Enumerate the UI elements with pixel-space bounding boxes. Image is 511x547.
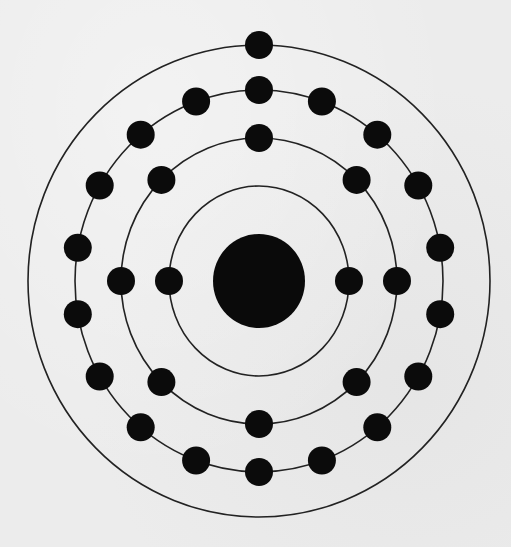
electron-l-8	[147, 166, 175, 194]
electron-l-7	[107, 267, 135, 295]
electron-m-12	[127, 413, 155, 441]
electron-m-11	[182, 447, 210, 475]
electron-m-16	[86, 172, 114, 200]
electron-k-1	[335, 267, 363, 295]
electron-m-4	[404, 172, 432, 200]
electron-m-8	[363, 413, 391, 441]
electron-l-6	[147, 368, 175, 396]
electron-n-1	[245, 31, 273, 59]
electron-m-15	[64, 234, 92, 262]
electron-m-13	[86, 363, 114, 391]
electron-m-5	[426, 234, 454, 262]
electron-m-7	[404, 363, 432, 391]
electron-l-1	[245, 124, 273, 152]
electron-m-9	[308, 447, 336, 475]
electron-m-1	[245, 76, 273, 104]
bohr-atom-diagram	[0, 0, 511, 547]
electron-m-2	[308, 88, 336, 116]
diagram-canvas	[0, 0, 511, 547]
electron-m-6	[426, 300, 454, 328]
electron-m-18	[182, 88, 210, 116]
electron-l-2	[343, 166, 371, 194]
electron-l-5	[245, 410, 273, 438]
electron-m-17	[127, 121, 155, 149]
electron-l-4	[343, 368, 371, 396]
electron-m-14	[64, 300, 92, 328]
electron-k-2	[155, 267, 183, 295]
electron-m-3	[363, 121, 391, 149]
nucleus	[213, 234, 305, 328]
electron-m-10	[245, 458, 273, 486]
electron-l-3	[383, 267, 411, 295]
